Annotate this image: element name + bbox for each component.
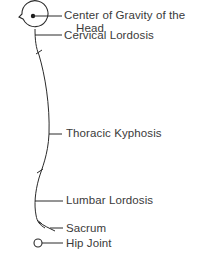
tick-t12	[37, 169, 43, 173]
label-cervical-lordosis: Cervical Lordosis	[64, 29, 154, 42]
label-lumbar-lordosis: Lumbar Lordosis	[66, 194, 153, 207]
spine-curve	[35, 29, 49, 228]
hip-joint-icon	[34, 239, 42, 247]
head-outline	[19, 1, 48, 27]
label-head-gravity: Center of Gravity of the	[64, 9, 185, 22]
spine-diagram: Center of Gravity of the Head Cervical L…	[0, 0, 219, 258]
label-hip-joint: Hip Joint	[66, 237, 112, 250]
tick-c7	[36, 50, 42, 54]
label-thoracic-kyphosis: Thoracic Kyphosis	[66, 127, 162, 140]
label-sacrum: Sacrum	[66, 222, 106, 235]
